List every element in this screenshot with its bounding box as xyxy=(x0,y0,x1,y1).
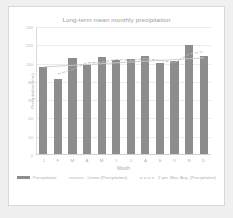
legend-label: 2 per. Mov. Avg. (Precipitation) xyxy=(158,175,216,180)
y-tick-label: 20 xyxy=(28,134,33,139)
legend-solid-line-icon xyxy=(69,176,84,180)
bar[interactable] xyxy=(54,79,62,154)
legend-label: Precipitation xyxy=(33,175,57,180)
x-axis-label: Month xyxy=(36,166,211,171)
legend-item[interactable]: 2 per. Mov. Avg. (Precipitation) xyxy=(140,175,216,180)
bar[interactable] xyxy=(156,63,164,154)
legend-bar-swatch-icon xyxy=(17,176,30,179)
bar[interactable] xyxy=(83,65,91,154)
y-tick-label: 120 xyxy=(26,43,33,48)
bar-series xyxy=(36,27,211,155)
x-tick-label: A xyxy=(86,158,89,163)
chart-card: Long-term mean monthly precipitation Pre… xyxy=(8,6,225,206)
y-tick-label: 80 xyxy=(28,79,33,84)
legend-item[interactable]: Linear (Precipitation) xyxy=(69,175,127,180)
x-tick-label: J xyxy=(130,158,132,163)
bar[interactable] xyxy=(39,67,47,154)
legend-label: Linear (Precipitation) xyxy=(87,175,127,180)
x-tick-label: S xyxy=(158,158,161,163)
y-tick-label: 100 xyxy=(26,61,33,66)
x-tick-label: D xyxy=(202,158,205,163)
y-tick-label: 140 xyxy=(26,25,33,30)
x-tick-label: M xyxy=(71,158,75,163)
bar[interactable] xyxy=(170,61,178,154)
x-tick-label: J xyxy=(115,158,117,163)
bar[interactable] xyxy=(141,56,149,154)
x-axis-line xyxy=(36,154,211,155)
legend-item[interactable]: Precipitation xyxy=(17,175,57,180)
plot-area: Precipitation (mm) 020406080100120140 JF… xyxy=(36,27,211,155)
x-tick-label: A xyxy=(144,158,147,163)
chart-legend: PrecipitationLinear (Precipitation)2 per… xyxy=(9,175,224,180)
bar[interactable] xyxy=(185,45,193,154)
chart-title: Long-term mean monthly precipitation xyxy=(9,16,224,23)
y-tick-label: 0 xyxy=(31,153,33,158)
bar[interactable] xyxy=(127,59,135,154)
y-tick-label: 40 xyxy=(28,116,33,121)
y-tick-label: 60 xyxy=(28,98,33,103)
x-tick-label: O xyxy=(173,158,176,163)
bar[interactable] xyxy=(68,58,76,154)
bar[interactable] xyxy=(200,56,208,154)
x-tick-label: J xyxy=(42,158,44,163)
legend-dashed-line-icon xyxy=(140,176,155,180)
bar[interactable] xyxy=(112,60,120,154)
x-tick-label: M xyxy=(100,158,104,163)
x-tick-label: F xyxy=(57,158,60,163)
x-tick-label: N xyxy=(188,158,191,163)
bar[interactable] xyxy=(98,57,106,154)
